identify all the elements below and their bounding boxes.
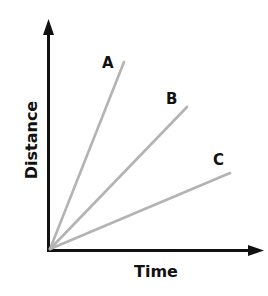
series-lines xyxy=(50,62,230,249)
label-b: B xyxy=(166,90,177,108)
y-axis-label: Distance xyxy=(22,101,41,180)
label-a: A xyxy=(102,54,114,72)
x-axis-arrow-icon xyxy=(248,245,264,256)
x-axis xyxy=(47,245,264,256)
line-a xyxy=(50,62,124,249)
x-axis-label: Time xyxy=(134,262,178,281)
distance-time-chart: A B C Time Distance xyxy=(0,0,268,296)
y-axis-arrow-icon xyxy=(43,19,54,35)
line-c xyxy=(50,173,230,249)
label-c: C xyxy=(213,151,224,169)
y-axis xyxy=(43,19,54,251)
line-b xyxy=(50,107,187,249)
